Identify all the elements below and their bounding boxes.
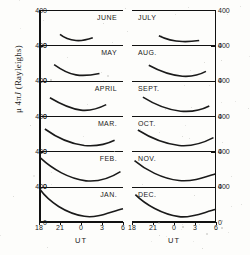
y-tick-mark (211, 81, 215, 82)
scan-speckle (107, 75, 109, 77)
y-tick-mark (39, 187, 43, 188)
scan-speckle (235, 101, 236, 102)
x-tick-mark (123, 222, 124, 225)
curve-nov (132, 152, 216, 186)
scan-speckle (182, 136, 183, 137)
scan-speckle (185, 125, 186, 126)
panel-jan: JAN. (39, 187, 123, 222)
scan-speckle (221, 227, 223, 229)
right-month-column: JULY AUG. SEPT. OCT. NOV. (132, 10, 216, 222)
scan-speckle (47, 247, 48, 248)
scan-speckle (30, 125, 31, 126)
panel-aug: AUG. (132, 45, 216, 80)
scan-speckle (67, 57, 68, 58)
panel-mar: MAR. (39, 116, 123, 151)
scan-speckle (221, 60, 222, 61)
x-tick-mark (153, 222, 154, 225)
x-tick-label-3-right: 3 (188, 224, 202, 231)
scan-speckle (221, 220, 223, 222)
scan-speckle (114, 151, 115, 152)
scan-speckle (227, 117, 229, 119)
x-tick-label-3-left: 3 (95, 224, 109, 231)
scan-speckle (191, 107, 192, 108)
scan-speckle (140, 129, 141, 130)
panel-may: MAY (39, 45, 123, 80)
x-tick-mark (102, 222, 103, 225)
y-tick-mark (211, 222, 215, 223)
figure-panel-grid: μ 4πJ (Rayleighs) JUNE MAY APRIL MAR. (0, 0, 250, 255)
scan-speckle (206, 233, 208, 235)
scan-speckle (19, 104, 20, 105)
scan-speckle (101, 72, 102, 73)
scan-speckle (175, 14, 176, 15)
y-tick-label-400-r-0: 400 (218, 7, 230, 14)
x-tick-mark (60, 222, 61, 225)
scan-speckle (202, 248, 203, 249)
y-tick-label-400-r-4: 400 (218, 148, 230, 155)
y-tick-mark (211, 116, 215, 117)
scan-speckle (51, 172, 52, 173)
x-tick-label-21-right: 21 (146, 224, 160, 231)
y-tick-mark (39, 45, 43, 46)
scan-speckle (159, 235, 160, 236)
y-tick-mark (211, 151, 215, 152)
curve-june (39, 11, 123, 45)
scan-speckle (159, 132, 160, 133)
scan-speckle (103, 23, 104, 24)
y-axis-title-fourpi: 4π (13, 96, 23, 105)
x-tick-mark (174, 222, 175, 225)
curve-feb (39, 152, 123, 186)
scan-speckle (227, 14, 228, 15)
scan-speckle (51, 184, 52, 185)
scan-speckle (241, 204, 242, 205)
scan-speckle (20, 28, 21, 29)
scan-speckle (184, 85, 185, 86)
y-axis-title-mu: μ (13, 108, 23, 113)
left-month-column: JUNE MAY APRIL MAR. FEB. (39, 10, 123, 222)
scan-speckle (166, 236, 167, 237)
scan-speckle (19, 0, 20, 1)
curve-july (132, 11, 216, 45)
scan-speckle (231, 206, 232, 207)
scan-speckle (103, 80, 104, 81)
panel-nov: NOV. (132, 151, 216, 186)
y-tick-mark (211, 10, 215, 11)
scan-speckle (182, 226, 184, 228)
right-ut-label: UT (159, 236, 189, 245)
scan-speckle (158, 222, 160, 224)
scan-speckle (189, 138, 190, 139)
y-tick-mark (211, 45, 215, 46)
scan-speckle (112, 42, 113, 43)
panel-oct: OCT. (132, 116, 216, 151)
panel-dec: DEC. (132, 187, 216, 222)
scan-speckle (188, 7, 189, 8)
scan-speckle (161, 35, 162, 36)
x-tick-mark (39, 222, 40, 225)
scan-speckle (249, 56, 250, 57)
scan-speckle (110, 124, 112, 126)
scan-speckle (194, 195, 195, 196)
panel-feb: FEB. (39, 151, 123, 186)
scan-speckle (147, 89, 148, 90)
x-tick-mark (132, 222, 133, 225)
x-tick-mark (81, 222, 82, 225)
scan-speckle (231, 176, 232, 177)
y-tick-label-400-r-5: 400 (218, 183, 230, 190)
curve-jan (39, 188, 123, 221)
scan-speckle (43, 20, 44, 21)
scan-speckle (228, 232, 229, 233)
scan-speckle (204, 62, 205, 63)
y-axis-title-units: (Rayleighs) (13, 45, 23, 89)
curve-dec (132, 188, 216, 221)
curve-sept (132, 82, 216, 116)
scan-speckle (33, 175, 35, 177)
x-tick-mark (195, 222, 196, 225)
y-axis-title-script-j: J (13, 92, 23, 96)
scan-speckle (50, 79, 52, 81)
scan-speckle (87, 104, 88, 105)
scan-speckle (125, 8, 126, 9)
x-tick-mark (216, 222, 217, 225)
y-tick-label-400-r-2: 400 (218, 77, 230, 84)
y-tick-mark (39, 151, 43, 152)
curve-mar (39, 117, 123, 151)
